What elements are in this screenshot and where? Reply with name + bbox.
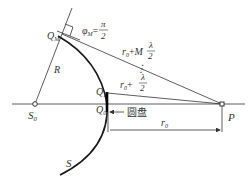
r1-two: 2 <box>140 83 145 93</box>
phase-two: 2 <box>101 31 106 41</box>
label-r1: r0+ <box>120 79 133 91</box>
r1-lambda: λ <box>140 72 145 82</box>
source-point <box>33 102 38 107</box>
label-q0: Q0 <box>96 104 106 116</box>
label-disk: 圆盘 <box>127 106 147 118</box>
label-phase: φM= <box>82 25 99 37</box>
label-r0: r0 <box>161 117 168 129</box>
label-s0: S0 <box>28 109 38 123</box>
label-q1: Q1 <box>96 86 106 98</box>
observation-point <box>220 102 224 106</box>
phase-pi: π <box>101 19 106 29</box>
label-wavefront-s: S <box>66 157 72 169</box>
label-rm: r0+M <box>122 46 144 58</box>
ray-q1 <box>107 93 222 104</box>
radius-line <box>35 8 72 104</box>
rm-two: 2 <box>148 51 153 61</box>
fresnel-diagram: S0 P S R Q0 Q1 QM φM= π 2 r0+M λ 2 ⋮ r0+… <box>0 0 252 184</box>
label-r: R <box>53 64 60 75</box>
label-p: P <box>227 111 235 123</box>
rm-lambda: λ <box>148 40 153 50</box>
